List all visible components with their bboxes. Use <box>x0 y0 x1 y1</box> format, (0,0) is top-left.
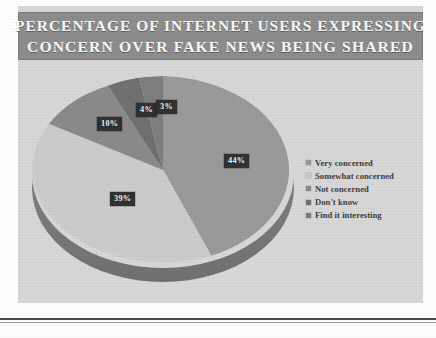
legend-item-dont-know[interactable]: Don't know <box>306 196 418 209</box>
legend-swatch-icon <box>306 213 311 218</box>
scanned-page: PERCENTAGE OF INTERNET USERS EXPRESSING … <box>0 0 436 338</box>
legend-item-not-concerned[interactable]: Not concerned <box>306 182 418 195</box>
legend-label: Find it interesting <box>315 210 382 220</box>
chart-title-line-1: PERCENTAGE OF INTERNET USERS EXPRESSING <box>15 15 426 36</box>
pie-chart-3d: 44% 39% 10% 4% 3% <box>32 70 294 292</box>
data-label-dont-know: 4% <box>136 103 157 117</box>
legend-swatch-icon <box>306 186 311 191</box>
chart-panel: PERCENTAGE OF INTERNET USERS EXPRESSING … <box>18 6 423 303</box>
legend-item-find-it-interesting[interactable]: Find it interesting <box>306 209 418 222</box>
data-label-find-it-interesting: 3% <box>156 100 177 114</box>
chart-legend: Very concerned Somewhat concerned Not co… <box>306 156 418 222</box>
legend-label: Somewhat concerned <box>315 171 394 181</box>
data-label-somewhat-concerned: 39% <box>110 192 135 206</box>
legend-swatch-icon <box>306 160 311 165</box>
legend-item-very-concerned[interactable]: Very concerned <box>306 156 418 169</box>
chart-title-line-2: CONCERN OVER FAKE NEWS BEING SHARED <box>27 36 414 57</box>
legend-label: Very concerned <box>315 158 373 168</box>
plot-area: 44% 39% 10% 4% 3% Very concerned Somewha… <box>18 60 423 303</box>
page-divider-rule <box>0 318 436 320</box>
data-label-not-concerned: 10% <box>97 117 122 131</box>
legend-label: Not concerned <box>315 184 369 194</box>
legend-label: Don't know <box>315 197 358 207</box>
page-divider-rule-secondary <box>0 322 436 323</box>
chart-title-bar: PERCENTAGE OF INTERNET USERS EXPRESSING … <box>18 12 423 60</box>
legend-item-somewhat-concerned[interactable]: Somewhat concerned <box>306 169 418 182</box>
data-label-very-concerned: 44% <box>224 154 249 168</box>
legend-swatch-icon <box>306 200 311 205</box>
legend-swatch-icon <box>306 173 311 178</box>
